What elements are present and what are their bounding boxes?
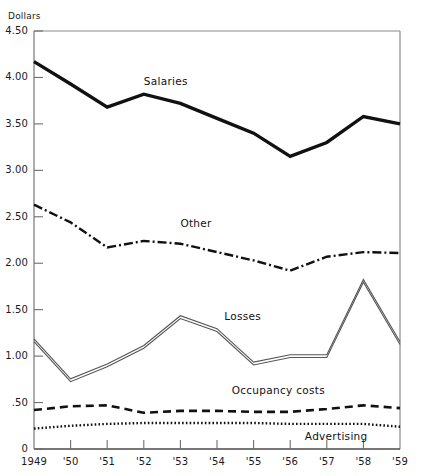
plot-area bbox=[0, 0, 422, 476]
y-tick-label: 2.00 bbox=[0, 257, 28, 268]
series-line-losses bbox=[34, 279, 400, 378]
y-tick-label: 3.50 bbox=[0, 118, 28, 129]
x-tick-label: '50 bbox=[51, 456, 91, 467]
x-tick-label: '55 bbox=[234, 456, 274, 467]
y-tick-label: 3.00 bbox=[0, 164, 28, 175]
series-line-other bbox=[34, 205, 400, 271]
expense-line-chart: Dollars 0.501.001.502.002.503.003.504.00… bbox=[0, 0, 422, 476]
x-tick-label: '56 bbox=[270, 456, 310, 467]
series-label-occupancy-costs: Occupancy costs bbox=[232, 384, 325, 396]
x-tick-label: '53 bbox=[160, 456, 200, 467]
y-tick-label: 1.00 bbox=[0, 350, 28, 361]
x-tick-label: '51 bbox=[87, 456, 127, 467]
y-tick-label: 4.00 bbox=[0, 71, 28, 82]
y-tick-label: 2.50 bbox=[0, 211, 28, 222]
series-label-losses: Losses bbox=[224, 310, 261, 322]
series-line-occupancy-costs bbox=[34, 405, 400, 412]
x-tick-label: '57 bbox=[307, 456, 347, 467]
data-series-group bbox=[34, 62, 400, 429]
series-line-losses bbox=[34, 282, 400, 381]
y-tick-label: 4.50 bbox=[0, 25, 28, 36]
y-tick-label: 1.50 bbox=[0, 304, 28, 315]
x-tick-label: 1949 bbox=[14, 456, 54, 467]
series-line-advertising bbox=[34, 423, 400, 429]
series-label-other: Other bbox=[180, 217, 211, 229]
x-tick-label: '58 bbox=[343, 456, 383, 467]
series-label-advertising: Advertising bbox=[305, 430, 368, 442]
series-label-salaries: Salaries bbox=[144, 75, 188, 87]
y-tick-label: 0 bbox=[0, 443, 28, 454]
series-line-salaries bbox=[34, 62, 400, 157]
x-tick-label: '52 bbox=[124, 456, 164, 467]
x-tick-label: '59 bbox=[380, 456, 420, 467]
y-tick-label: .50 bbox=[0, 397, 28, 408]
x-tick-label: '54 bbox=[197, 456, 237, 467]
